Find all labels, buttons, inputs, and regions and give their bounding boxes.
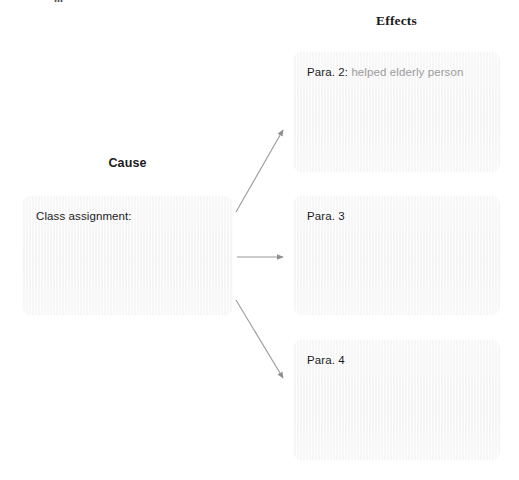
arrow-cause-to-effect-1 [236, 130, 283, 212]
effect-box-1-value: helped elderly person [351, 66, 463, 78]
cause-box-text: Class assignment: [36, 209, 223, 224]
effect-box-1-label: Para. 2: [307, 66, 348, 78]
effect-box-3-text: Para. 4 [307, 353, 490, 368]
cause-effect-diagram: ... Effects Cause Class assignment: Para… [0, 0, 519, 480]
cause-box-label: Class assignment: [36, 210, 132, 222]
effect-box-3-label: Para. 4 [307, 354, 345, 366]
cause-column-heading: Cause [22, 156, 233, 170]
effect-box-2-label: Para. 3 [307, 210, 345, 222]
effect-box-para-3[interactable]: Para. 3 [293, 196, 500, 315]
cause-box[interactable]: Class assignment: [22, 196, 233, 315]
effect-box-para-4[interactable]: Para. 4 [293, 340, 500, 460]
effect-box-para-2[interactable]: Para. 2: helped elderly person [293, 52, 500, 172]
cut-off-title-fragment: ... [54, 0, 124, 3]
effect-box-2-text: Para. 3 [307, 209, 490, 224]
effect-box-1-text: Para. 2: helped elderly person [307, 65, 490, 80]
arrow-cause-to-effect-3 [236, 300, 283, 378]
effects-column-heading: Effects [293, 13, 500, 29]
